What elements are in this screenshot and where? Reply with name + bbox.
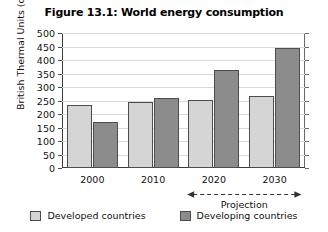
y-axis-tick (58, 114, 62, 115)
y-axis-tick-label: 200 (37, 109, 55, 120)
gridline (62, 74, 305, 75)
bar (249, 96, 274, 168)
bar (67, 105, 92, 168)
figure-container: Figure 13.1: World energy consumption Br… (0, 0, 328, 232)
y-axis-tick (58, 101, 62, 102)
legend-swatch-icon (30, 211, 41, 221)
y-axis-tick-right (305, 128, 309, 129)
y-axis-tick-label: 0 (49, 163, 55, 174)
gridline (62, 47, 305, 48)
y-axis-tick-right (305, 141, 309, 142)
y-axis-tick-label: 450 (37, 41, 55, 52)
bar (128, 102, 153, 168)
y-axis-tick-right (305, 47, 309, 48)
projection-arrow-icon (62, 190, 305, 199)
y-axis-tick-label: 500 (37, 28, 55, 39)
y-axis-tick-label: 300 (37, 82, 55, 93)
legend-item-label: Developed countries (47, 210, 145, 221)
bar (188, 100, 213, 168)
legend-item-label: Developing countries (197, 210, 298, 221)
y-axis-tick-label: 400 (37, 55, 55, 66)
y-axis-title: British Thermal Units (quadrillions) (14, 0, 28, 110)
gridline (62, 87, 305, 88)
y-axis-tick (58, 155, 62, 156)
y-axis-tick (58, 33, 62, 34)
plot-area: 050100150200250300350400450500 200020102… (62, 33, 305, 168)
bar (154, 98, 179, 168)
page-title: Figure 13.1: World energy consumption (0, 6, 328, 19)
y-axis-tick-right (305, 155, 309, 156)
y-axis-tick (58, 60, 62, 61)
x-axis-tick-label: 2010 (141, 174, 165, 185)
y-axis-tick-right (305, 87, 309, 88)
y-axis-tick-right (305, 74, 309, 75)
y-axis-tick (58, 168, 62, 169)
y-axis-tick (58, 141, 62, 142)
y-axis-tick-right (305, 101, 309, 102)
y-axis-tick-right (305, 33, 309, 34)
gridline (62, 60, 305, 61)
gridline (62, 33, 305, 34)
legend-swatch-icon (180, 211, 191, 221)
projection-label: Projection (221, 199, 268, 210)
y-axis-tick-right (305, 60, 309, 61)
y-axis-tick-label: 350 (37, 68, 55, 79)
legend: Developed countriesDeveloping countries (0, 210, 328, 221)
y-axis-tick (58, 128, 62, 129)
plot-region: 050100150200250300350400450500 200020102… (62, 33, 305, 168)
y-axis-tick (58, 47, 62, 48)
y-axis-tick-right (305, 168, 309, 169)
y-axis-tick-label: 250 (37, 95, 55, 106)
y-axis-tick-label: 150 (37, 122, 55, 133)
y-axis-tick (58, 87, 62, 88)
y-axis-tick-label: 50 (43, 149, 55, 160)
bar (93, 122, 118, 168)
y-axis-tick-label: 100 (37, 136, 55, 147)
legend-item[interactable]: Developed countries (30, 210, 145, 221)
y-axis-tick (58, 74, 62, 75)
y-axis-tick-right (305, 114, 309, 115)
bar (275, 48, 300, 168)
x-axis-tick-label: 2000 (80, 174, 104, 185)
x-axis-tick-label: 2030 (263, 174, 287, 185)
legend-item[interactable]: Developing countries (180, 210, 298, 221)
x-axis-tick-label: 2020 (202, 174, 226, 185)
bar (214, 70, 239, 168)
